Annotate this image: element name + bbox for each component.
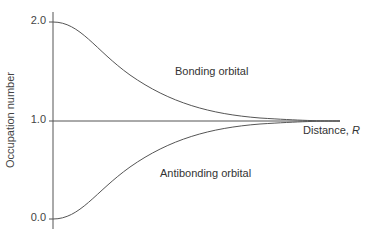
y-tick-label: 2.0 <box>16 14 46 26</box>
x-axis-label-variable: R <box>352 124 360 136</box>
y-axis-label: Occupation number <box>4 65 16 175</box>
y-tick-label: 0.0 <box>16 211 46 223</box>
y-tick-label: 1.0 <box>16 113 46 125</box>
chart: 2.0 1.0 0.0 Occupation number Bonding or… <box>0 0 371 240</box>
plot-area <box>0 0 371 240</box>
x-axis-label: Distance, R <box>303 124 360 136</box>
x-axis-label-text: Distance, <box>303 124 352 136</box>
bonding-label: Bonding orbital <box>175 65 248 77</box>
antibonding-label: Antibonding orbital <box>160 167 251 179</box>
